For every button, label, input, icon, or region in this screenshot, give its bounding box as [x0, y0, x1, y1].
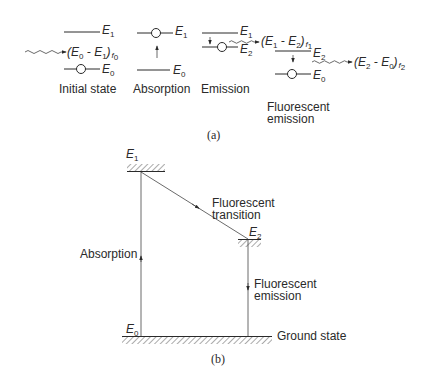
- ground-state-label: Ground state: [277, 329, 347, 343]
- transition-arrow-icon: [192, 204, 199, 208]
- photon-wave-icon: [25, 51, 61, 54]
- upper-level-label: E2: [313, 46, 326, 62]
- lower-level-label: E2: [240, 42, 253, 58]
- fluorescence-diagram: E1 (E0 - E1)f0 E0 Initial state E1: [0, 0, 426, 380]
- upper-level-label: E1: [175, 24, 188, 40]
- panel-a-caption: (a): [207, 128, 220, 142]
- upper-level-label: E1: [102, 23, 115, 39]
- absorption-label: Absorption: [80, 247, 137, 261]
- photon-energy-label: (E1 - E2)f1: [261, 34, 313, 51]
- hatch-e1: [127, 164, 165, 171]
- stage-label-line2: emission: [267, 112, 314, 126]
- electron-icon: [77, 65, 86, 74]
- emission-label-line2: emission: [254, 289, 301, 303]
- hatch-ground: [122, 337, 272, 344]
- level-e0: E0 Ground state: [122, 322, 347, 344]
- stage-absorption: E1 E0 Absorption: [133, 24, 190, 96]
- lower-level-label: E0: [313, 68, 326, 84]
- electron-icon: [288, 70, 297, 79]
- stage-label: Initial state: [59, 82, 117, 96]
- level-e2: E2: [238, 225, 262, 247]
- transition-label-line2: transition: [212, 208, 261, 222]
- level-e1: E1: [126, 147, 165, 172]
- panel-b-caption: (b): [211, 352, 225, 366]
- photon-energy-label: (E2 - E0)f2: [354, 55, 406, 72]
- level-e0-label: E0: [126, 322, 139, 338]
- hatch-e2: [238, 240, 261, 247]
- level-e1-label: E1: [126, 147, 139, 163]
- lower-level-label: E0: [173, 63, 186, 79]
- electron-icon: [152, 29, 161, 38]
- photon-wave-icon: [312, 61, 347, 64]
- stage-initial-state: E1 (E0 - E1)f0 E0 Initial state: [25, 23, 119, 96]
- stage-fluorescent-emission: E2 E0 (E2 - E0)f2 Fluorescent emission: [267, 46, 406, 126]
- electron-icon: [218, 43, 227, 52]
- level-e2-label: E2: [249, 225, 262, 241]
- stage-emission: E1 E2 (E1 - E2)f1 Emission: [201, 24, 313, 96]
- panel-b: E1 E2 E0 Ground state Absorption: [80, 147, 347, 366]
- photon-energy-label: (E0 - E1)f0: [67, 45, 119, 62]
- lower-level-label: E0: [102, 62, 115, 78]
- panel-a: E1 (E0 - E1)f0 E0 Initial state E1: [25, 23, 406, 142]
- stage-label: Emission: [201, 82, 250, 96]
- stage-label: Absorption: [133, 82, 190, 96]
- upper-level-label: E1: [240, 24, 253, 40]
